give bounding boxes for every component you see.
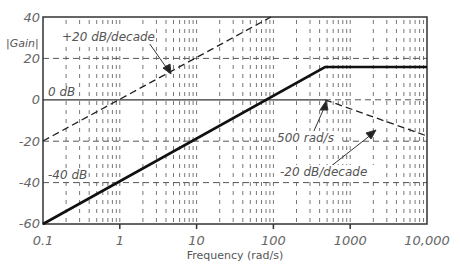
annotation-minus40: -40 dB	[48, 168, 87, 182]
x-tick-1: 1	[116, 233, 124, 248]
annotation-500-rads: 500 rad/s	[277, 131, 334, 145]
y-tick-40: 40	[23, 10, 40, 25]
y-tick-0: 0	[32, 92, 40, 107]
x-tick-10: 10	[188, 233, 205, 248]
x-tick-100: 100	[261, 233, 286, 248]
y-axis-label: |Gain|	[6, 37, 39, 50]
x-axis-label: Frequency (rad/s)	[187, 249, 284, 262]
y-tick-minus60: -60	[19, 216, 40, 231]
x-tick-0.1: 0.1	[33, 233, 54, 248]
x-tick-10000: 10,000	[404, 233, 450, 248]
annotation-0db: 0 dB	[48, 85, 75, 99]
gain-curve	[43, 67, 427, 224]
horizontal-grid	[43, 58, 427, 182]
x-tick-1000: 1000	[334, 233, 367, 248]
bode-plot: +20 dB/decade 0 dB 500 rad/s -20 dB/deca…	[0, 0, 460, 272]
minor-grid	[66, 20, 423, 222]
annotation-plus20: +20 dB/decade	[62, 30, 155, 44]
y-tick-minus20: -20	[19, 134, 40, 149]
annotation-minus20: -20 dB/decade	[280, 165, 367, 179]
y-tick-minus40: -40	[19, 175, 40, 190]
y-tick-20: 20	[23, 51, 40, 66]
